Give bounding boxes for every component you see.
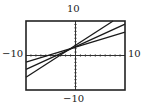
graph-window [0,0,142,107]
line-3 [26,21,113,77]
